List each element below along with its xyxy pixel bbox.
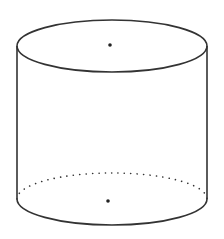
top-face-ellipse (17, 20, 207, 72)
bottom-front-arc (17, 199, 207, 225)
top-center-point (108, 43, 112, 47)
bottom-center-point (106, 199, 110, 203)
cylinder-diagram (0, 0, 224, 239)
bottom-hidden-arc (17, 173, 207, 199)
